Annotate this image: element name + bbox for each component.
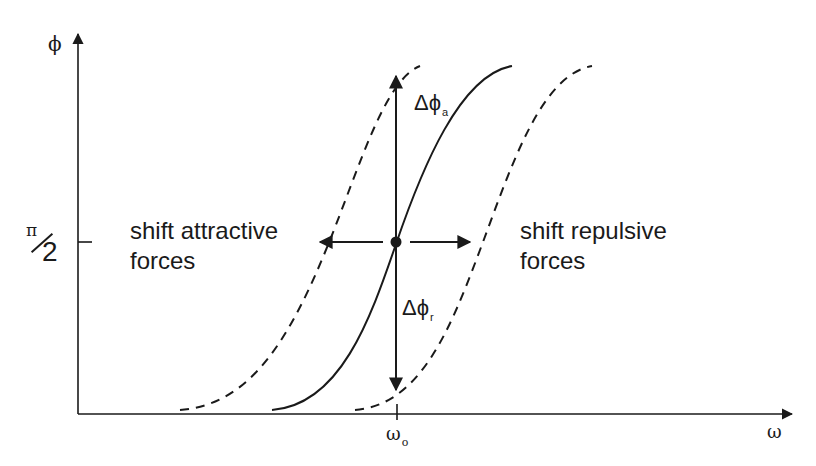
shift-attractive-line2: forces [130,246,278,276]
delta-phi-a-subscript: a [442,106,448,118]
denominator: 2 [42,236,58,268]
shift-attractive-line1: shift attractive [130,216,278,246]
shift-attractive-label: shift attractive forces [130,216,278,276]
delta-phi-r-subscript: r [430,311,434,323]
delta-phi-text: Δϕ [414,90,441,115]
shift-repulsive-label: shift repulsive forces [520,216,667,276]
delta-phi-r-label: Δϕr [402,295,434,321]
y-axis-label: ϕ [48,32,62,56]
delta-phi-a-label: Δϕa [414,90,448,116]
shift-repulsive-line2: forces [520,246,667,276]
omega-symbol: ω [386,423,401,444]
curve-unperturbed [272,66,512,410]
pi-symbol: π [26,220,37,240]
delta-phi-text: Δϕ [402,295,429,320]
y-tick-label-pi-half: π 2 [24,220,60,266]
x-tick-label-omega0: ωo [386,423,408,444]
phase-shift-diagram [0,0,816,466]
x-axis-label: ω [767,421,782,442]
omega-subscript: o [402,436,409,449]
resonance-point [391,237,402,248]
shift-repulsive-line1: shift repulsive [520,216,667,246]
